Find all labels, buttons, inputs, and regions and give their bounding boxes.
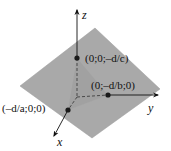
y-intercept-point: [105, 92, 110, 97]
z-intercept-point: [74, 55, 79, 60]
x-axis-label: x: [56, 135, 63, 149]
plane-diagram: z y x (0;0;–d/c) (0;–d/b;0) (–d/a;0;0): [0, 0, 171, 151]
y-intercept-label: (0;–d/b;0): [91, 79, 135, 92]
y-axis-label: y: [147, 101, 154, 115]
z-intercept-label: (0;0;–d/c): [85, 52, 129, 65]
x-intercept-point: [65, 107, 70, 112]
z-axis-label: z: [81, 8, 87, 22]
x-intercept-label: (–d/a;0;0): [2, 102, 46, 115]
